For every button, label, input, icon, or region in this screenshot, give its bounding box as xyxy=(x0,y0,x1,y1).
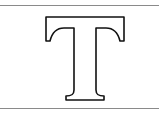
bottom-divider xyxy=(0,108,159,109)
letter-t-outline-icon: T xyxy=(0,0,159,114)
